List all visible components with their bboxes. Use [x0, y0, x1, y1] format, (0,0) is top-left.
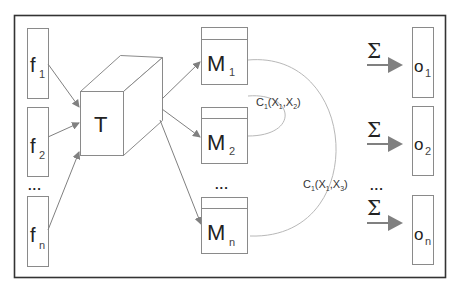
tensor-label: T	[94, 112, 107, 137]
models-ellipsis: ...	[215, 177, 229, 192]
svg-text:Σ: Σ	[367, 39, 381, 63]
svg-text:Σ: Σ	[367, 118, 381, 142]
svg-text:M: M	[207, 220, 225, 245]
svg-text:f: f	[30, 135, 36, 157]
svg-text:2: 2	[229, 145, 235, 157]
output-o1: o 1	[413, 28, 434, 98]
svg-text:2: 2	[39, 149, 45, 161]
svg-text:f: f	[30, 54, 36, 76]
input-f1: f 1	[28, 29, 49, 99]
svg-text:o: o	[414, 225, 423, 244]
svg-text:1: 1	[39, 68, 45, 80]
sum-arrow-n: Σ	[367, 196, 403, 231]
output-o2: o 2	[413, 107, 434, 176]
svg-text:1: 1	[229, 66, 235, 78]
arrow-t-to-m2	[162, 109, 200, 137]
svg-text:2: 2	[425, 145, 431, 157]
svg-text:o: o	[414, 135, 423, 154]
arrow-fn-to-t	[48, 152, 79, 230]
svg-text:f: f	[30, 224, 36, 246]
svg-text:Σ: Σ	[367, 196, 381, 220]
correlation-label-c1-x1-x3: C1(X1,X3)	[303, 178, 348, 192]
model-m1: M 1	[202, 28, 248, 85]
arrow-t-to-m1	[162, 62, 200, 99]
svg-text:M: M	[207, 51, 225, 76]
sum-arrow-1: Σ	[367, 39, 403, 73]
inputs-ellipsis: ...	[28, 178, 42, 193]
sum-arrow-2: Σ	[367, 118, 403, 152]
correlation-label-c1-x1-x2: C1(X1,X2)	[256, 96, 301, 110]
svg-text:n: n	[425, 235, 431, 247]
svg-text:o: o	[414, 57, 423, 76]
model-m2: M 2	[202, 108, 248, 164]
arrow-f2-to-t	[48, 123, 79, 137]
input-fn: f n	[28, 197, 49, 267]
input-f2: f 2	[28, 108, 49, 177]
output-on: o n	[413, 196, 434, 265]
model-mn: M n	[202, 198, 248, 254]
ensemble-diagram: f 1 f 2 ... f n T M 1 M 2 ...	[0, 0, 456, 289]
svg-text:M: M	[207, 130, 225, 155]
correlation-arc-m1-mn	[248, 60, 336, 236]
svg-text:n: n	[229, 236, 235, 248]
arrow-f1-to-t	[48, 64, 79, 107]
outputs-ellipsis: ...	[370, 178, 384, 193]
correlation-arc-m1-m2	[248, 96, 285, 136]
tensor-cube	[81, 56, 163, 156]
svg-text:1: 1	[425, 67, 431, 79]
svg-text:n: n	[39, 239, 45, 251]
arrow-t-to-mn	[160, 120, 201, 224]
